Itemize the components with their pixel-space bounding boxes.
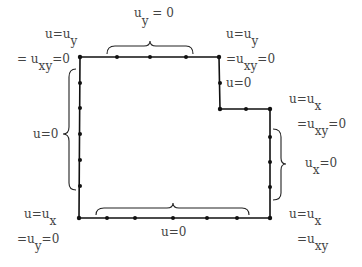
top-left-corner-label-line2: = uxy=0 [17,52,70,73]
node [268,107,272,111]
left-brace-label: u=0 [33,127,58,141]
left-brace [63,69,76,190]
inner-corner-label-line2: =uxy=0 [297,117,346,138]
node [78,132,82,136]
node [244,107,248,111]
bottom-brace [96,203,249,215]
bottom-left-corner-label-line2: =uy=0 [17,232,59,253]
node [268,216,272,220]
top-right-corner-label-line1: u=uy [226,27,259,48]
bottom-left-corner-label-line1: u=ux [24,207,57,228]
top-brace [107,41,193,54]
node [78,158,82,162]
node [78,55,82,59]
node [218,107,222,111]
bottom-brace-label: u=0 [161,225,186,239]
node [133,216,137,220]
node [171,216,175,220]
node [78,81,82,85]
top-brace-label: uy = 0 [134,6,174,28]
top-left-corner-label-line1: u=uy [45,27,78,48]
right-brace-label: ux=0 [305,156,337,177]
inner-corner-label-line1: u=ux [289,92,322,113]
node [184,55,188,59]
node [268,135,272,139]
bottom-right-corner-label-line1: u=ux [289,207,322,228]
node [105,216,109,220]
boundary-diagram: uy = 0 u=uy = uxy=0 u=uy =uxy=0 u=0 u=ux… [0,0,362,267]
right-brace [273,129,286,200]
node [205,216,209,220]
bottom-right-corner-label-line2: =uxy [297,232,329,253]
node [235,216,239,220]
node [78,184,82,188]
top-right-corner-label-line2: =uxy=0 [226,52,275,73]
node [268,160,272,164]
node [77,216,81,220]
node [217,55,221,59]
node [115,55,119,59]
node [218,81,222,85]
inner-vertical-label: u=0 [226,76,251,90]
node [78,106,82,110]
node [148,55,152,59]
node [268,185,272,189]
